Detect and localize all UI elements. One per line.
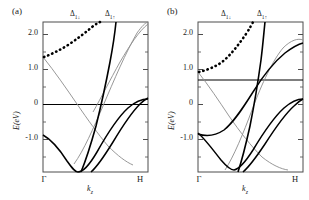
panel-a: (a) E(eV) 2.0 1.0 0 -1.0 Γ H kz Δ1↓ Δ1↑ … — [0, 0, 154, 200]
band-structure-figure: (a) E(eV) 2.0 1.0 0 -1.0 Γ H kz Δ1↓ Δ1↑ … — [0, 0, 309, 200]
panel-b: (b) E(eV) 2.0 1.0 0 -1.0 Γ H kz Δ1↓ Δ1↑ … — [155, 0, 309, 200]
panel-a-plot — [0, 0, 154, 200]
panel-b-plot — [155, 0, 309, 200]
